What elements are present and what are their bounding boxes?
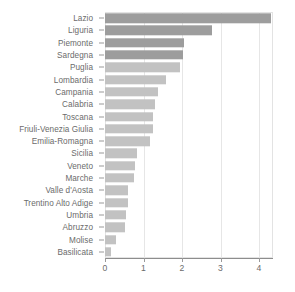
bar (105, 247, 111, 256)
category-label: Campania (55, 87, 93, 96)
bar (105, 136, 150, 145)
category-label: Abruzzo (63, 223, 93, 232)
category-label: Toscana (62, 112, 93, 121)
y-tick-mark (99, 141, 104, 142)
bar (105, 198, 128, 207)
x-tick-mark (105, 258, 106, 262)
x-tick-mark (221, 258, 222, 262)
bar-row: Calabria (0, 98, 295, 110)
y-tick-mark (99, 104, 104, 105)
y-tick-mark (99, 153, 104, 154)
bar-row: Veneto (0, 160, 295, 172)
bar (105, 26, 212, 35)
bar (105, 161, 135, 170)
bar-row: Campania (0, 86, 295, 98)
x-tick-label: 0 (103, 263, 108, 273)
category-label: Sardegna (57, 51, 93, 60)
y-tick-mark (99, 239, 104, 240)
category-label: Umbria (66, 210, 93, 219)
y-tick-mark (99, 178, 104, 179)
category-label: Puglia (70, 63, 93, 72)
category-label: Basilicata (57, 247, 93, 256)
bar-row: Lombardia (0, 74, 295, 86)
category-label: Veneto (67, 161, 93, 170)
y-tick-mark (99, 128, 104, 129)
bar-row: Valle d'Aosta (0, 184, 295, 196)
bar-row: Puglia (0, 61, 295, 73)
category-label: Lazio (73, 14, 93, 23)
x-axis-line (105, 258, 273, 259)
x-tick-label: 3 (218, 263, 223, 273)
x-tick-mark (259, 258, 260, 262)
x-tick-mark (144, 258, 145, 262)
bar (105, 75, 166, 84)
bar (105, 223, 125, 232)
bar-row: Trentino Alto Adige (0, 197, 295, 209)
y-tick-mark (99, 190, 104, 191)
chart-title (105, 0, 295, 9)
bar (105, 13, 271, 22)
bar (105, 210, 126, 219)
bar-chart: LazioLiguriaPiemonteSardegnaPugliaLombar… (0, 0, 295, 292)
category-label: Molise (69, 235, 93, 244)
bar (105, 38, 184, 47)
bar (105, 100, 155, 109)
bar-row: Liguria (0, 24, 295, 36)
bar-row: Sardegna (0, 49, 295, 61)
bar (105, 87, 158, 96)
y-tick-mark (99, 214, 104, 215)
y-tick-mark (99, 30, 104, 31)
category-label: Trentino Alto Adige (24, 198, 93, 207)
x-tick-label: 1 (141, 263, 146, 273)
y-tick-mark (99, 55, 104, 56)
y-tick-mark (99, 91, 104, 92)
bar-rows: LazioLiguriaPiemonteSardegnaPugliaLombar… (0, 12, 295, 258)
x-tick-label: 2 (180, 263, 185, 273)
x-tick-label: 4 (257, 263, 262, 273)
category-label: Valle d'Aosta (45, 186, 93, 195)
bar-row: Marche (0, 172, 295, 184)
y-tick-mark (99, 116, 104, 117)
category-label: Liguria (68, 26, 93, 35)
y-tick-mark (99, 79, 104, 80)
bar (105, 124, 153, 133)
bar-row: Abruzzo (0, 221, 295, 233)
y-tick-mark (99, 42, 104, 43)
category-label: Friuli-Venezia Giulia (19, 124, 93, 133)
bar (105, 50, 183, 59)
category-label: Lombardia (54, 75, 93, 84)
y-tick-mark (99, 165, 104, 166)
bar-row: Umbria (0, 209, 295, 221)
category-label: Calabria (62, 100, 93, 109)
category-label: Sicilia (71, 149, 93, 158)
y-tick-mark (99, 18, 104, 19)
y-tick-mark (99, 227, 104, 228)
y-tick-mark (99, 251, 104, 252)
bar (105, 112, 153, 121)
bar (105, 186, 128, 195)
y-tick-mark (99, 202, 104, 203)
bar-row: Sicilia (0, 147, 295, 159)
bar-row: Piemonte (0, 37, 295, 49)
category-label: Emilia-Romagna (32, 137, 93, 146)
category-label: Marche (65, 174, 93, 183)
y-tick-mark (99, 67, 104, 68)
bar-row: Friuli-Venezia Giulia (0, 123, 295, 135)
bar-row: Emilia-Romagna (0, 135, 295, 147)
x-tick-mark (182, 258, 183, 262)
category-label: Piemonte (58, 38, 93, 47)
bar-row: Toscana (0, 110, 295, 122)
bar-row: Molise (0, 233, 295, 245)
bar (105, 173, 134, 182)
bar-row: Basilicata (0, 246, 295, 258)
bar-row: Lazio (0, 12, 295, 24)
bar (105, 235, 116, 244)
bar (105, 149, 137, 158)
bar (105, 63, 180, 72)
